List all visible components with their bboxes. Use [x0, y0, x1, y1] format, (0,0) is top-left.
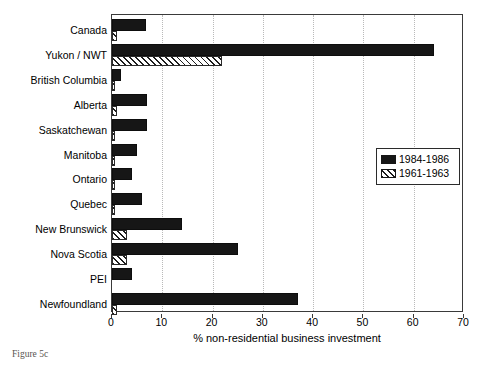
bar-row	[112, 263, 462, 288]
y-axis-label-saskatchewan: Saskatchewan	[0, 125, 107, 136]
bar-row	[112, 189, 462, 214]
bar-1984-1986	[112, 218, 182, 230]
bar-1984-1986	[112, 94, 147, 106]
x-axis-ticks: 010203040506070	[0, 314, 484, 330]
bar-1984-1986	[112, 193, 142, 205]
x-tick-label-10: 10	[155, 316, 167, 328]
legend: 1984-19861961-1963	[376, 148, 460, 185]
x-axis-title: % non-residential business investment	[111, 332, 463, 344]
x-tick-label-70: 70	[457, 316, 469, 328]
bar-row	[112, 65, 462, 90]
bar-row	[112, 239, 462, 264]
bar-1984-1986	[112, 119, 147, 131]
bar-1984-1986	[112, 293, 298, 305]
bar-1984-1986	[112, 44, 434, 56]
y-axis-category-labels: CanadaYukon / NWTBritish ColumbiaAlberta…	[0, 14, 107, 312]
bar-row	[112, 288, 462, 313]
y-axis-label-newfoundland: Newfoundland	[0, 299, 107, 310]
bar-row	[112, 214, 462, 239]
x-tick-label-40: 40	[306, 316, 318, 328]
y-axis-label-quebec: Quebec	[0, 199, 107, 210]
bar-row	[112, 114, 462, 139]
bar-1984-1986	[112, 268, 132, 280]
y-axis-label-yukon-nwt: Yukon / NWT	[0, 50, 107, 61]
bar-row	[112, 15, 462, 40]
bar-row	[112, 90, 462, 115]
y-axis-label-pei: PEI	[0, 274, 107, 285]
bar-row	[112, 40, 462, 65]
x-tick-label-50: 50	[357, 316, 369, 328]
figure-caption: Figure 5c	[12, 349, 48, 359]
bar-1984-1986	[112, 69, 121, 81]
x-tick-label-20: 20	[206, 316, 218, 328]
y-axis-label-alberta: Alberta	[0, 100, 107, 111]
x-tick-label-30: 30	[256, 316, 268, 328]
x-tick-label-60: 60	[407, 316, 419, 328]
legend-item-1961-1963: 1961-1963	[381, 166, 455, 180]
legend-label-1961-1963: 1961-1963	[399, 167, 449, 179]
x-tick-label-0: 0	[108, 316, 114, 328]
figure-5c: CanadaYukon / NWTBritish ColumbiaAlberta…	[0, 0, 484, 370]
y-axis-label-nova-scotia: Nova Scotia	[0, 249, 107, 260]
bar-1984-1986	[112, 144, 137, 156]
bar-1984-1986	[112, 243, 238, 255]
y-axis-label-british-columbia: British Columbia	[0, 75, 107, 86]
legend-item-1984-1986: 1984-1986	[381, 152, 455, 166]
y-axis-label-canada: Canada	[0, 25, 107, 36]
bar-1984-1986	[112, 168, 132, 180]
legend-swatch-1984-1986	[381, 155, 396, 164]
y-axis-label-manitoba: Manitoba	[0, 150, 107, 161]
legend-label-1984-1986: 1984-1986	[399, 153, 449, 165]
y-axis-label-new-brunswick: New Brunswick	[0, 224, 107, 235]
y-axis-label-ontario: Ontario	[0, 174, 107, 185]
bar-1984-1986	[112, 19, 146, 31]
legend-swatch-1961-1963	[381, 169, 396, 178]
